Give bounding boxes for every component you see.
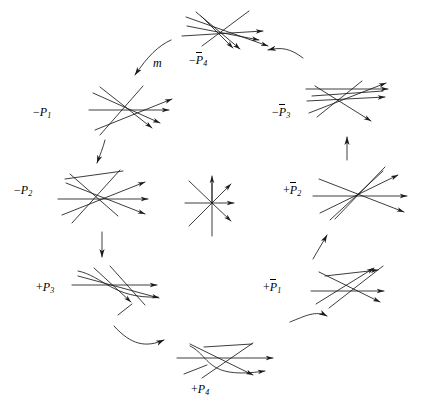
label-var: P — [198, 383, 205, 395]
label-sign: − — [189, 53, 196, 67]
arrangement-plus-P3 — [72, 266, 159, 315]
diagram-vector-layer — [0, 0, 422, 420]
central-arrangement — [185, 176, 234, 236]
label-subscript: 3 — [50, 286, 54, 295]
edge-P4-to-P1b — [290, 314, 327, 322]
label-var: P — [270, 281, 277, 293]
cycle-arrows — [97, 40, 347, 344]
arrangement-minus-P3-bar — [306, 81, 388, 121]
arrangement-minus-P4-bar — [182, 11, 268, 49]
arrangement-plus-P2-bar — [313, 167, 407, 220]
node-label-plus-P1-bar: +P1 — [263, 281, 281, 295]
edge-P3-to-P4 — [114, 326, 164, 344]
label-var: P — [40, 106, 47, 118]
node-label-plus-P2-bar: +P2 — [283, 184, 301, 198]
label-subscript: 4 — [203, 59, 207, 68]
label-sign: − — [33, 105, 40, 119]
figure-canvas: m −P4 −P3 +P2 +P1 +P4 +P3 −P2 −P1 — [0, 0, 422, 420]
label-var: P — [43, 281, 50, 293]
label-subscript: 4 — [205, 388, 209, 397]
edge-P3b-to-P4b — [268, 49, 303, 58]
label-subscript: 2 — [28, 189, 32, 198]
label-sign: − — [14, 183, 21, 197]
label-sign: − — [272, 105, 279, 119]
node-label-plus-P4: +P4 — [191, 383, 209, 397]
edge-label-m: m — [153, 57, 162, 69]
label-sign: + — [263, 280, 270, 294]
label-subscript: 3 — [286, 111, 290, 120]
label-subscript: 1 — [277, 286, 281, 295]
edge-P1b-to-P2b — [313, 235, 327, 259]
node-label-minus-P3-bar: −P3 — [272, 106, 290, 120]
label-sign: + — [36, 280, 43, 294]
node-label-minus-P2: −P2 — [14, 184, 32, 198]
arrangement-plus-P4 — [177, 343, 273, 378]
arrangement-plus-P1-bar — [311, 266, 384, 308]
node-label-minus-P1: −P1 — [33, 106, 51, 120]
label-var: P — [290, 184, 297, 196]
edge-P1-to-P2 — [97, 140, 105, 163]
label-sign: + — [283, 183, 290, 197]
label-var: P — [279, 106, 286, 118]
arrangement-minus-P2 — [58, 170, 148, 223]
label-subscript: 1 — [47, 111, 51, 120]
arrangement-minus-P1 — [89, 86, 172, 135]
node-label-plus-P3: +P3 — [36, 281, 54, 295]
label-var: P — [196, 54, 203, 66]
label-sign: + — [191, 382, 198, 396]
label-var: P — [21, 184, 28, 196]
label-subscript: 2 — [297, 189, 301, 198]
node-label-minus-P4-bar: −P4 — [189, 54, 207, 68]
